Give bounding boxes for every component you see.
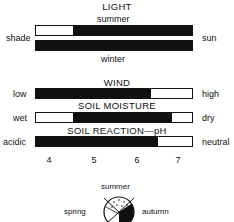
wind-bar <box>35 88 193 99</box>
season-autumn-label: autumn <box>142 207 169 217</box>
season-summer-label: summer <box>101 182 130 192</box>
ph-tick-7: 7 <box>172 155 184 165</box>
wind-left-label: low <box>13 89 27 99</box>
wind-right-label: high <box>202 89 219 99</box>
light-title: LIGHT <box>0 2 234 12</box>
light-summer-bar <box>35 25 193 36</box>
soil-moisture-fill <box>73 113 171 122</box>
wind-fill <box>36 89 151 98</box>
light-summer-fill <box>73 26 192 35</box>
ph-tick-4: 4 <box>43 155 55 165</box>
light-winter-label: winter <box>101 54 125 64</box>
soil-reaction-left-label: acidic <box>3 137 26 147</box>
season-circle-icon <box>99 192 139 222</box>
light-left-label: shade <box>6 33 31 43</box>
soil-reaction-title: SOIL REACTION—pH <box>0 126 234 136</box>
soil-moisture-left-label: wet <box>13 113 27 123</box>
ph-tick-5: 5 <box>88 155 100 165</box>
soil-moisture-title: SOIL MOISTURE <box>0 101 234 111</box>
soil-moisture-right-label: dry <box>202 113 215 123</box>
light-winter-fill <box>36 41 192 50</box>
light-winter-bar <box>35 40 193 51</box>
soil-moisture-bar <box>35 112 193 123</box>
season-spring-label: spring <box>64 207 86 217</box>
light-summer-label: summer <box>97 14 130 24</box>
ph-tick-6: 6 <box>131 155 143 165</box>
light-right-label: sun <box>202 33 217 43</box>
soil-reaction-bar <box>35 136 193 147</box>
soil-reaction-right-label: neutral <box>202 137 230 147</box>
soil-reaction-fill <box>36 137 158 146</box>
wind-title: WIND <box>0 78 234 88</box>
